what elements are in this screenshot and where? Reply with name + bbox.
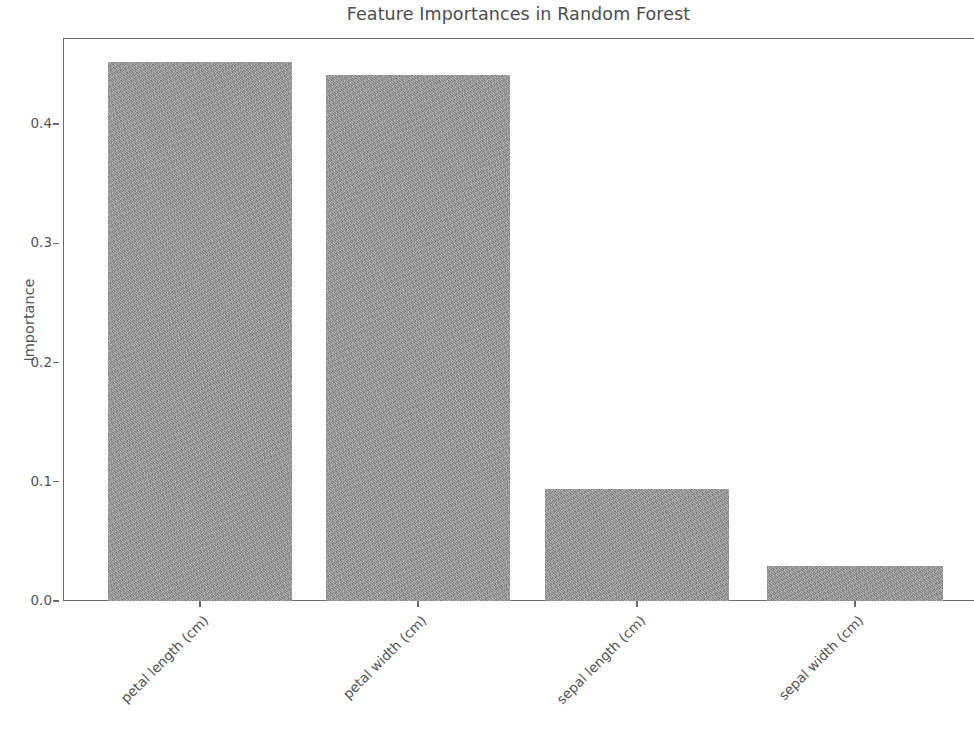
y-tick-label: 0.4 bbox=[31, 115, 52, 131]
x-tick-label-petal-width: petal width (cm) bbox=[277, 612, 430, 729]
x-tick-mark bbox=[199, 601, 200, 607]
figure-canvas: Feature Importances in Random Forest Imp… bbox=[0, 0, 974, 729]
y-tick-mark bbox=[53, 123, 59, 124]
x-tick-mark bbox=[854, 601, 855, 607]
x-tick-mark bbox=[417, 601, 418, 607]
y-tick-label: 0.3 bbox=[31, 234, 52, 250]
y-tick-label: 0.2 bbox=[31, 354, 52, 370]
y-tick-mark bbox=[53, 481, 59, 482]
x-tick-label-petal-length: petal length (cm) bbox=[59, 612, 212, 729]
chart-title: Feature Importances in Random Forest bbox=[63, 4, 974, 24]
x-tick-label-sepal-width: sepal width (cm) bbox=[714, 612, 867, 729]
y-tick-mark bbox=[53, 243, 59, 244]
y-tick-mark bbox=[53, 362, 59, 363]
y-tick-mark bbox=[53, 600, 59, 601]
x-tick-label-sepal-length: sepal length (cm) bbox=[496, 612, 649, 729]
bar-petal-length bbox=[108, 62, 292, 601]
y-tick-label: 0.0 bbox=[31, 592, 52, 608]
bar-sepal-length bbox=[545, 489, 729, 601]
y-tick-label: 0.1 bbox=[31, 473, 52, 489]
bar-petal-width bbox=[326, 75, 510, 601]
x-tick-mark bbox=[636, 601, 637, 607]
bar-sepal-width bbox=[767, 566, 943, 601]
